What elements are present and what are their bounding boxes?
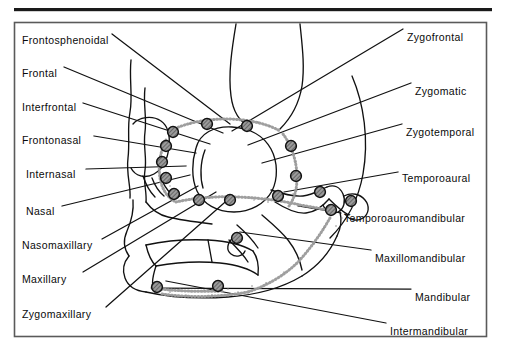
suture-marker-zygotemporal	[291, 171, 302, 182]
label-zygomaxillary: Zygomaxillary	[22, 308, 91, 320]
suture-marker-zygomatic-lower	[273, 191, 284, 202]
suture-marker-maxillary	[169, 189, 180, 200]
top-rule	[14, 8, 492, 11]
label-maxillomandibular: Maxillomandibular	[375, 252, 466, 264]
label-zygofrontal: Zygofrontal	[407, 31, 463, 43]
label-intermandibular: Intermandibular	[390, 325, 468, 337]
suture-marker-frontosphenoidal	[242, 121, 253, 132]
label-temporoauromandibular: Temporoauromandibular	[344, 212, 465, 224]
suture-marker-frontonasal	[168, 127, 179, 138]
suture-marker-mandibular	[213, 281, 224, 292]
label-frontosphenoidal: Frontosphenoidal	[22, 34, 109, 46]
label-interfrontal: Interfrontal	[22, 101, 76, 113]
suture-marker-interfrontal	[225, 195, 236, 206]
label-maxillary: Maxillary	[22, 273, 67, 285]
label-nasal: Nasal	[26, 205, 55, 217]
suture-marker-frontal	[202, 119, 213, 130]
label-temporoaural: Temporoaural	[402, 172, 470, 184]
label-frontal: Frontal	[22, 67, 57, 79]
label-internasal: Internasal	[26, 168, 76, 180]
label-zygotemporal: Zygotemporal	[406, 126, 474, 138]
suture-marker-nasomaxillary	[161, 173, 172, 184]
suture-marker-intermandibular	[152, 282, 163, 293]
label-mandibular: Mandibular	[415, 291, 470, 303]
suture-marker-zygomaxillary	[194, 195, 205, 206]
suture-marker-nasal	[157, 157, 168, 168]
suture-marker-temporoauromandibular	[326, 205, 337, 216]
figure-container: Frontosphenoidal Frontal Interfrontal Fr…	[0, 0, 506, 355]
label-nasomaxillary: Nasomaxillary	[22, 239, 92, 251]
suture-marker-temporoaural	[315, 187, 326, 198]
label-zygomatic: Zygomatic	[415, 85, 467, 97]
suture-marker-maxillomandibular	[232, 233, 243, 244]
suture-marker-zygofrontal	[286, 141, 297, 152]
suture-marker-internasal	[161, 141, 172, 152]
label-frontonasal: Frontonasal	[22, 134, 81, 146]
suture-marker-aural	[346, 196, 357, 207]
